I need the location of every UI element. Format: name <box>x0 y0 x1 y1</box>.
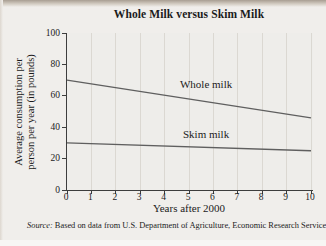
y-tick-label-0: 0 <box>0 185 60 196</box>
series-label-whole-milk: Whole milk <box>180 78 232 90</box>
source-note: Source: Based on data from U.S. Departme… <box>27 221 323 231</box>
plot-area: Whole milkSkim milk <box>66 33 313 191</box>
y-tickmark-100 <box>62 33 66 34</box>
y-tick-label-40: 40 <box>0 122 60 133</box>
series-label-skim-milk: Skim milk <box>183 128 229 140</box>
source-prefix: Source: <box>27 221 53 230</box>
series-lines <box>67 33 313 190</box>
y-tick-label-80: 80 <box>0 59 60 70</box>
y-tick-label-20: 20 <box>0 153 60 164</box>
y-tickmark-40 <box>62 127 66 128</box>
chart-title: Whole Milk versus Skim Milk <box>66 8 312 20</box>
page-edge-artifact-top <box>0 0 326 7</box>
series-line-skim-milk <box>67 143 311 151</box>
y-tickmark-60 <box>62 95 66 96</box>
x-axis-title: Years after 2000 <box>66 202 312 214</box>
figure: Whole Milk versus Skim Milk Average cons… <box>0 0 326 246</box>
y-tick-label-100: 100 <box>0 28 60 39</box>
y-axis-ticks: 020406080100 <box>0 33 60 190</box>
y-tickmark-80 <box>62 64 66 65</box>
page-edge-artifact-bottom <box>0 240 326 246</box>
source-text: Based on data from U.S. Department of Ag… <box>53 221 326 230</box>
y-tick-label-60: 60 <box>0 90 60 101</box>
y-tickmark-20 <box>62 158 66 159</box>
